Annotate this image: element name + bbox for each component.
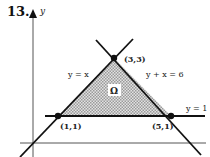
y-axis-label: y (39, 6, 46, 16)
point-1-1 (55, 113, 61, 119)
problem-number: 13. (7, 4, 30, 19)
point-3-3 (111, 55, 117, 61)
line-label-y-equals-x: y = x (67, 70, 89, 79)
line-label-y-plus-x-equals-6: y + x = 6 (145, 70, 184, 79)
line-label-y-equals-1: y = 1 (185, 104, 207, 113)
region-diagram: 13. y (3,3) y = x y + x = 6 Ω y = 1 (1,1… (0, 0, 210, 157)
y-axis-arrow-icon (29, 9, 37, 18)
point-label-5-1: (5,1) (152, 121, 174, 131)
point-5-1 (168, 113, 174, 119)
point-label-3-3: (3,3) (124, 54, 146, 64)
point-label-1-1: (1,1) (60, 121, 82, 131)
region-label-omega: Ω (110, 86, 118, 96)
